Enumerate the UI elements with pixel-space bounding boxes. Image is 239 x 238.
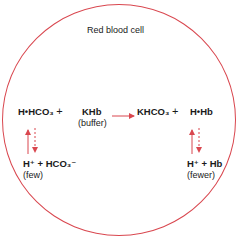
reaction-arrows [0, 0, 239, 238]
